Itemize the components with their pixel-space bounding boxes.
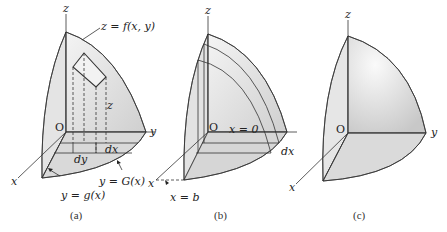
panel-c-drawing (296, 20, 426, 184)
panel-a-y-axis-label: y (150, 126, 156, 137)
panel-b-bound-label: x = b (170, 192, 199, 203)
arrow-icon (117, 160, 121, 164)
panel-a-origin-label: O (55, 122, 64, 133)
panel-a-x-axis-label: x (11, 176, 17, 187)
panel-c-x-axis-label: x (289, 182, 295, 193)
panel-a-upper-curve-label: y = G(x) (99, 176, 145, 187)
panel-a-lower-curve-label: y = g(x) (61, 190, 105, 201)
panel-c-caption: (c) (353, 210, 365, 221)
panel-a-z-axis-label: z (63, 3, 69, 14)
panel-a-height-label: z (107, 100, 113, 111)
panel-a-caption: (a) (70, 210, 82, 221)
panel-a-surface-label: z = f(x, y) (101, 21, 155, 32)
panel-b-drawing (156, 16, 297, 180)
panel-b-z-axis-label: z (205, 5, 211, 16)
panel-b-dx-label: dx (281, 146, 294, 157)
panel-b-caption: (b) (214, 210, 227, 221)
arrow-icon (165, 180, 169, 185)
panel-a-dx-label: dx (105, 144, 118, 155)
panel-c-y-axis-label: y (431, 127, 437, 138)
panel-b-x-axis-label: x (148, 178, 154, 189)
panel-b-plane-label: x = 0 (229, 124, 258, 135)
panel-c-origin-label: O (336, 124, 345, 135)
panel-c-z-axis-label: z (345, 9, 351, 20)
panel-a-dy-label: dy (74, 154, 87, 165)
panel-b-origin-label: O (209, 122, 218, 133)
